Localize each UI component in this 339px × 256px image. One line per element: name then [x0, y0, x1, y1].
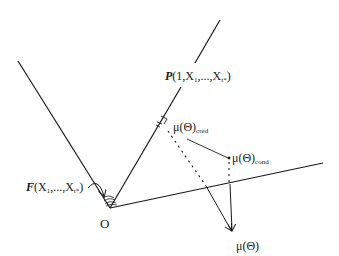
cond-point [228, 157, 231, 160]
mu-cond-label: μ(Θ)cond [232, 151, 269, 166]
right-angle-marker-icon [156, 116, 167, 127]
f-angle-label: F(X1,...,Xt*) [25, 180, 83, 195]
p-vector-line-lower [110, 87, 181, 208]
projection-diagram: O P(1,X1,...,Xt*) F(X1,...,Xt*) μ(Θ)cred… [0, 0, 339, 256]
cred-arrow-line [206, 186, 231, 230]
mu-cred-label: μ(Θ)cred [173, 120, 209, 135]
right-plane-line [110, 163, 323, 208]
mu-label: μ(Θ) [236, 239, 259, 253]
cond-arrow-line [230, 184, 232, 230]
cred-to-cond-line [187, 139, 228, 158]
p-vector-line-upper [195, 20, 220, 63]
origin-label: O [100, 216, 109, 231]
p-vector-label: P(1,X1,...,Xt*) [165, 69, 231, 84]
